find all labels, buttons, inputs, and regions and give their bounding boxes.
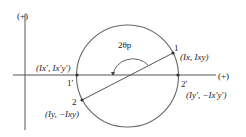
point-2-coords: (Iy, −Ixy) bbox=[45, 109, 79, 119]
point-1p-label: 1′ bbox=[67, 78, 74, 88]
point-1-coords: (Ix, Ixy) bbox=[180, 52, 208, 62]
point-2p-coords: (Iy′, −Ix′y′) bbox=[186, 90, 226, 100]
point-2-label: 2 bbox=[72, 97, 77, 107]
diameter-line bbox=[82, 53, 173, 100]
point-1p-dot bbox=[75, 73, 78, 76]
point-2-dot bbox=[80, 98, 83, 101]
point-2p-label: 2′ bbox=[181, 79, 188, 89]
angle-label: 2θp bbox=[118, 40, 132, 50]
point-2p-dot bbox=[176, 73, 179, 76]
horizontal-axis-positive-label: (+) bbox=[218, 71, 229, 81]
point-1p-coords: (Ix′, Ix′y′) bbox=[36, 63, 70, 73]
angle-arc bbox=[113, 59, 148, 75]
point-1-label: 1 bbox=[174, 43, 179, 53]
vertical-axis-positive-label: (+) bbox=[17, 11, 28, 21]
mohr-circle-diagram: (+) (+) 2θp 1 (Ix, Ixy) 2 (Iy, −Ixy) 1′ … bbox=[0, 0, 246, 137]
